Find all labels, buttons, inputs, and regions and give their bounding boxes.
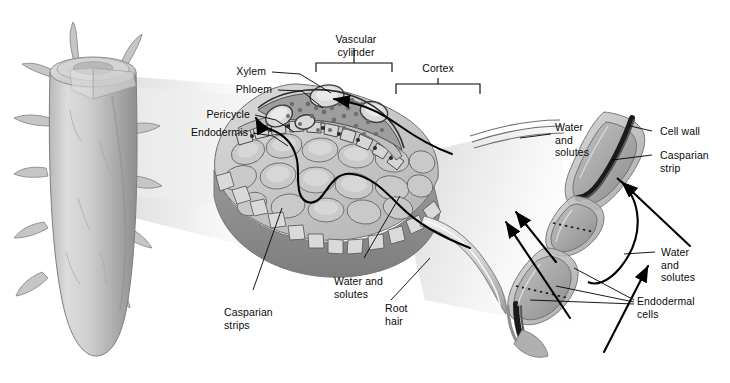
label-casparian-strips: Casparian strips <box>224 306 308 331</box>
label-endodermal-cells: Endodermal cells <box>637 295 717 320</box>
label-water-and-solutes-upper-right: Water and solutes <box>555 121 605 159</box>
label-casparian-strip: Casparian strip <box>660 149 728 174</box>
label-water-and-solutes-lower-right: Water and solutes <box>661 246 713 284</box>
bracket-icon-cortex <box>396 84 480 94</box>
label-cortex: Cortex <box>406 62 470 75</box>
label-endodermis: Endodermis <box>132 126 248 139</box>
label-cell-wall: Cell wall <box>660 125 728 138</box>
label-phloem: Phloem <box>172 83 272 96</box>
label-root-hair: Root hair <box>385 302 433 327</box>
label-vascular-cylinder: Vascular cylinder <box>310 33 402 58</box>
label-water-and-solutes-center: Water and solutes <box>334 275 416 300</box>
label-xylem: Xylem <box>172 65 266 78</box>
root-water-pathway-figure: Vascular cylinder Cortex Xylem Phloem Pe… <box>0 0 730 383</box>
bracket-icon-vascular-cylinder <box>316 63 392 72</box>
label-pericycle: Pericycle <box>152 108 250 121</box>
arrow-icon-into-cell <box>622 182 690 246</box>
